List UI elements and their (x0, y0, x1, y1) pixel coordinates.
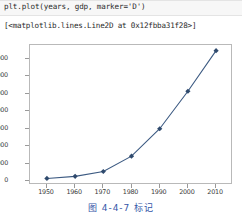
y-axis-tick-label: 12000 (0, 71, 8, 79)
y-axis-tick-label: 2000 (0, 159, 8, 167)
x-axis-tick-mark (46, 184, 47, 188)
x-axis-tick-label: 1990 (151, 188, 166, 196)
data-point-marker (44, 176, 49, 181)
y-axis-tick-label: 10000 (0, 89, 8, 97)
y-axis-tick-label: 6000 (0, 124, 8, 132)
x-axis-tick-mark (102, 184, 103, 188)
y-axis-tick-label: 0 (4, 176, 8, 184)
y-axis-tick-mark (25, 58, 29, 59)
code-input-line[interactable]: plt.plot(years, gdp, marker='D') (4, 2, 146, 11)
data-point-marker (73, 174, 78, 179)
x-axis-tick-mark (159, 184, 160, 188)
figure-caption: 图 4-4-7 标记 (0, 201, 242, 213)
x-axis-tick-mark (215, 184, 216, 188)
x-axis-tick-mark (74, 184, 75, 188)
x-axis-tick-label: 1980 (123, 188, 138, 196)
y-axis-tick-mark (25, 128, 29, 129)
notebook-output-repr: [<matplotlib.lines.Line2D at 0x12fbba31f… (4, 21, 196, 30)
y-axis-tick-label: 8000 (0, 106, 8, 114)
y-axis-tick-mark (25, 110, 29, 111)
y-axis-tick-mark (25, 145, 29, 146)
x-axis-tick-label: 2000 (179, 188, 194, 196)
x-axis-tick-mark (131, 184, 132, 188)
y-axis-tick-label: 14000 (0, 54, 8, 62)
x-axis-tick-label: 2010 (207, 188, 222, 196)
y-axis-tick-mark (25, 180, 29, 181)
gdp-line-series (30, 45, 233, 185)
x-axis-tick-mark (187, 184, 188, 188)
x-axis-tick-label: 1950 (38, 188, 53, 196)
x-axis-tick-label: 1970 (95, 188, 110, 196)
y-axis-tick-mark (25, 163, 29, 164)
plot-axes-frame (29, 44, 232, 184)
y-axis-tick-mark (25, 75, 29, 76)
y-axis-tick-mark (25, 93, 29, 94)
data-point-marker (101, 169, 106, 174)
x-axis-tick-label: 1960 (66, 188, 81, 196)
y-axis-tick-label: 4000 (0, 141, 8, 149)
matplotlib-figure: 02000400060008000100001200014000 1950196… (0, 38, 242, 196)
gdp-line-path (47, 51, 216, 179)
